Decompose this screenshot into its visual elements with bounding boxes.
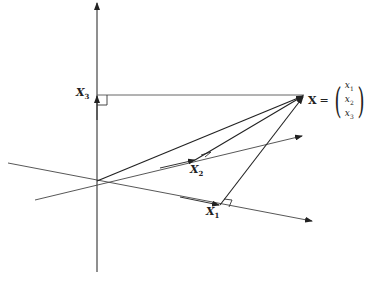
left-paren: (	[334, 86, 341, 116]
x1-label: X1	[206, 205, 219, 220]
component-3: x3	[345, 108, 354, 122]
x2-right-angle	[201, 152, 211, 157]
vector-definition: X = ( x1 x2 x3 )	[308, 80, 368, 121]
x3-label: X3	[76, 86, 89, 101]
right-paren: )	[357, 86, 364, 116]
x2-axis	[35, 136, 302, 200]
vector-name: X	[308, 94, 317, 107]
x1-projection-arrow	[180, 197, 219, 205]
component-2: x2	[345, 94, 354, 108]
equals-sign: =	[320, 94, 329, 107]
x3-right-angle	[97, 95, 107, 105]
x1-axis	[8, 163, 312, 221]
x2-to-x-line	[195, 96, 303, 160]
component-column: x1 x2 x3	[345, 80, 354, 121]
x2-label: X2	[190, 163, 203, 178]
component-1: x1	[345, 80, 354, 94]
